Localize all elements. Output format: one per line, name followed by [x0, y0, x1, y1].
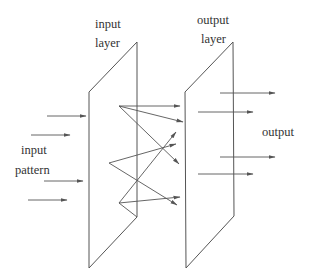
output-layer-plane — [185, 42, 234, 268]
input-pattern-arrows — [28, 116, 86, 200]
output-label: output — [262, 125, 294, 139]
connection-arrow — [119, 203, 137, 217]
layer-connection-arrows — [109, 106, 183, 217]
connection-arrow — [119, 106, 179, 164]
input-layer-plane — [89, 42, 137, 268]
connection-arrow — [119, 106, 183, 122]
output-layer-label-line2: layer — [201, 32, 227, 46]
input-pattern-label-line1: input — [21, 143, 47, 157]
connection-arrow — [119, 132, 176, 203]
input-pattern-label-line2: pattern — [15, 163, 50, 177]
neural-network-diagram: input layer output layer input pattern o… — [0, 0, 310, 279]
input-layer-label-line1: input — [95, 17, 121, 31]
connection-arrow — [109, 144, 176, 163]
input-layer-label-line2: layer — [95, 36, 121, 50]
connection-arrow — [119, 197, 180, 203]
output-layer-label-line1: output — [197, 13, 229, 27]
